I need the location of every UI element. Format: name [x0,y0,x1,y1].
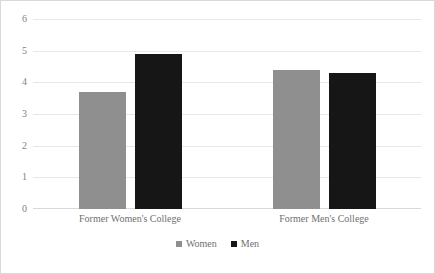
legend-item-men[interactable]: Men [231,239,259,249]
y-axis-tick-label: 2 [22,141,27,151]
bar-women-1 [273,70,320,209]
y-axis-tick-label: 0 [22,204,27,214]
x-axis-category-label: Former Women's College [30,213,230,224]
y-axis-tick-label: 5 [22,46,27,56]
y-axis-tick-label: 1 [22,172,27,182]
x-axis-category-label: Former Men's College [224,213,424,224]
y-axis-tick-label: 6 [22,14,27,24]
legend-swatch-icon [231,241,237,247]
plot-area: 0123456 [33,19,421,209]
legend-swatch-icon [176,241,182,247]
chart-legend: WomenMen [1,239,434,249]
legend-label: Women [186,239,217,249]
bar-women-0 [79,92,126,209]
bar-chart: 0123456 Former Women's CollegeFormer Men… [0,0,435,274]
bar-men-1 [329,73,376,209]
legend-item-women[interactable]: Women [176,239,217,249]
bar-men-0 [135,54,182,209]
y-axis-tick-label: 3 [22,109,27,119]
y-axis-tick-label: 4 [22,77,27,87]
gridline [33,19,421,20]
legend-label: Men [241,239,259,249]
gridline [33,51,421,52]
